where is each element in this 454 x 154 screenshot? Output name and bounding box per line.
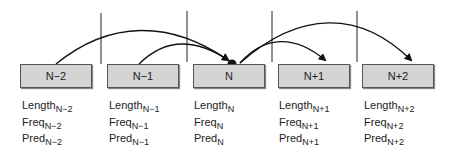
node-box-nplus2: N+2: [362, 64, 434, 88]
node-box-nplus1: N+1: [278, 64, 350, 88]
arrow-n-to-nplus2: [240, 23, 411, 63]
node-box-nminus1: N−1: [107, 64, 179, 88]
node-label: N−1: [133, 70, 154, 82]
node-label: N+2: [388, 70, 409, 82]
node-info-nminus1: LengthN−1 FreqN−1 PredN−1 ...: [109, 99, 159, 154]
node-info-nplus1: LengthN+1 FreqN+1 PredN+1 ...: [279, 99, 329, 154]
node-box-n: N: [193, 64, 265, 88]
arrow-nminus1-to-n: [139, 44, 228, 64]
node-label: N+1: [304, 70, 325, 82]
node-info-n: LengthN FreqN PredN ...: [194, 99, 234, 154]
node-label: N−2: [46, 70, 67, 82]
node-info-nminus2: LengthN−2 FreqN−2 PredN−2 ...: [22, 99, 72, 154]
node-label: N: [225, 70, 233, 82]
node-box-nminus2: N−2: [20, 64, 92, 88]
node-info-nplus2: LengthN+2 FreqN+2 PredN+2 ...: [364, 99, 414, 154]
